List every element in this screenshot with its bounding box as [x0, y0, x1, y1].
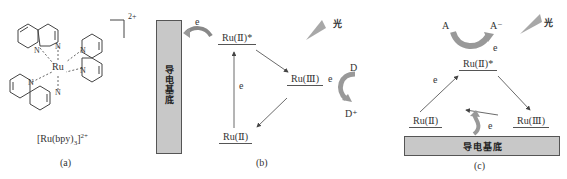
light-label-c: 光	[544, 16, 553, 29]
state-ground-c: Ru(Ⅱ)	[409, 115, 442, 128]
electron-label-c3: e	[488, 120, 492, 131]
state-oxidized-c: Ru(Ⅲ)	[513, 115, 549, 128]
acceptor-reduced-label: A⁻	[490, 20, 503, 31]
acceptor-label: A	[442, 20, 449, 31]
electron-label-c2: e	[433, 74, 437, 85]
electron-label-c1: e	[493, 42, 497, 53]
conductive-substrate-c: 导电基底	[404, 136, 560, 156]
caption-c: (c)	[474, 160, 485, 171]
state-excited-c: Ru(Ⅱ)*	[459, 58, 497, 71]
substrate-label-c: 导电基底	[463, 140, 503, 153]
